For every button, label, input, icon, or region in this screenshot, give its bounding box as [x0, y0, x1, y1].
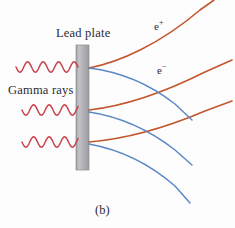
positron-label-charge: +: [159, 18, 164, 27]
gamma-ray-2: [22, 105, 78, 115]
electron-tracks-group: [89, 68, 192, 203]
positron-label: e+: [154, 21, 163, 32]
gamma-rays-group: [16, 62, 78, 147]
gamma-ray-1: [16, 62, 78, 72]
gamma-rays-label: Gamma rays: [8, 84, 74, 97]
electron-track-3: [89, 144, 190, 203]
electron-track-2: [89, 112, 192, 165]
electron-track-1: [89, 68, 192, 120]
electron-label: e−: [157, 65, 166, 76]
electron-label-charge: −: [162, 62, 167, 71]
gamma-ray-3: [22, 137, 78, 147]
pair-production-figure: Lead plate Gamma rays e+ e− (b): [0, 0, 235, 228]
panel-caption: (b): [95, 204, 110, 217]
figure-canvas: [0, 0, 235, 228]
lead-plate-label: Lead plate: [56, 27, 110, 40]
